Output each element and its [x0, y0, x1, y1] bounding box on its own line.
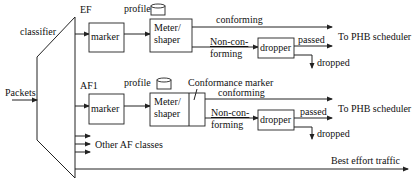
af1-class-label: AF1: [80, 80, 98, 91]
ef-nonconforming-label-2: forming: [210, 48, 242, 59]
ef-dropper-label: dropper: [260, 42, 292, 53]
af1-profile-label: profile: [124, 77, 151, 88]
af1-conforming-label: conforming: [218, 87, 265, 98]
ef-marker-label: marker: [91, 31, 120, 42]
ef-conforming-label: conforming: [216, 14, 263, 25]
best-effort-label: Best effort traffic: [331, 155, 401, 166]
ef-profile-db-icon: [151, 4, 165, 15]
ef-dropped-label: dropped: [317, 57, 350, 68]
af1-meter-label-2: shaper: [154, 108, 181, 119]
af1-nonconforming-label-1: Non-con-: [211, 107, 249, 118]
ef-output-label: To PHB scheduler: [338, 31, 412, 42]
ef-meter-label-1: Meter/: [154, 22, 181, 33]
af1-dropper-label: dropper: [260, 114, 292, 125]
ef-nonconforming-label-1: Non-con-: [210, 36, 248, 47]
classifier-shape: [37, 17, 75, 178]
diffserv-diagram: classifier Packets EF marker profile Met…: [0, 0, 418, 181]
af1-dropped-arrow: [294, 127, 312, 139]
af1-nonconforming-label-2: forming: [211, 119, 243, 130]
af1-marker-label: marker: [91, 103, 120, 114]
ef-profile-label: profile: [124, 3, 151, 14]
packets-label: Packets: [5, 87, 36, 98]
other-af-classes-label: Other AF classes: [95, 139, 163, 150]
af1-meter-label-1: Meter/: [154, 96, 181, 107]
classifier-label: classifier: [20, 26, 57, 37]
ef-passed-label: passed: [298, 34, 325, 45]
ef-class-label: EF: [80, 4, 92, 15]
ef-dropped-arrow: [294, 55, 312, 68]
af1-dropped-label: dropped: [317, 128, 350, 139]
af1-profile-db-icon: [157, 78, 171, 89]
ef-meter-label-2: shaper: [154, 34, 181, 45]
af1-output-label: To PHB scheduler: [338, 103, 412, 114]
af1-passed-label: passed: [300, 106, 327, 117]
